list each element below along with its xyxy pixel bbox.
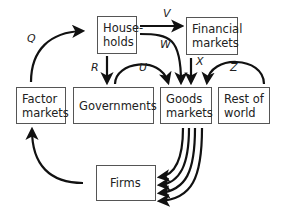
rest-of-world-label-2: world xyxy=(224,106,269,120)
rest-of-world-label-1: Rest of xyxy=(224,92,269,106)
node-financial-markets: Financial markets xyxy=(186,17,238,55)
flow-label-r: R xyxy=(91,61,99,74)
flow-label-u: U xyxy=(139,61,147,74)
firms-label: Firms xyxy=(110,176,155,190)
governments-label: Governments xyxy=(79,99,153,113)
arrow-q xyxy=(31,31,82,82)
financial-markets-label-1: Financial xyxy=(192,22,237,36)
flow-label-z: Z xyxy=(230,61,238,74)
flow-label-x: X xyxy=(196,55,204,68)
arrow-firms-factor xyxy=(32,130,83,183)
factor-markets-label-1: Factor xyxy=(22,92,65,106)
flow-label-q: Q xyxy=(27,32,36,45)
node-governments: Governments xyxy=(73,87,154,124)
goods-markets-label-1: Goods xyxy=(166,92,211,106)
arrow-goods-firms-1 xyxy=(160,128,183,177)
node-factor-markets: Factor markets xyxy=(16,87,66,124)
financial-markets-label-2: markets xyxy=(192,36,237,50)
node-firms: Firms xyxy=(96,165,156,201)
node-goods-markets: Goods markets xyxy=(160,87,212,124)
flow-label-v: V xyxy=(163,7,171,20)
goods-markets-label-2: markets xyxy=(166,106,211,120)
factor-markets-label-2: markets xyxy=(22,106,65,120)
households-label-2: holds xyxy=(103,35,136,49)
flow-label-w: W xyxy=(160,38,171,51)
node-households: House- holds xyxy=(97,16,137,54)
households-label-1: House- xyxy=(103,21,136,35)
node-rest-of-world: Rest of world xyxy=(218,87,270,124)
